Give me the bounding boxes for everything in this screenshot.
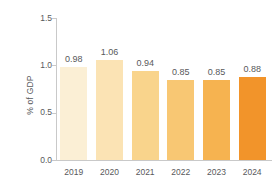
- bar[interactable]: [203, 80, 230, 160]
- bar-value-label: 1.06: [92, 47, 128, 57]
- x-tick-label: 2024: [234, 166, 270, 178]
- bar-value-label: 0.88: [234, 64, 270, 74]
- x-tick-label: 2023: [199, 166, 235, 178]
- bar-value-label: 0.98: [56, 54, 92, 64]
- bar-slot: 0.88: [234, 18, 270, 160]
- y-tick-label: 1.0: [6, 61, 52, 70]
- bar-slot: 0.85: [163, 18, 199, 160]
- y-axis-ticks: 0.00.51.01.5: [0, 0, 52, 190]
- bar[interactable]: [96, 60, 123, 160]
- bar-chart: % of GDP 0.00.51.01.5 0.981.060.940.850.…: [0, 0, 280, 190]
- x-tick-label: 2020: [92, 166, 128, 178]
- bar-slot: 1.06: [92, 18, 128, 160]
- y-tick-label: 0.0: [6, 156, 52, 165]
- bar-slot: 0.94: [127, 18, 163, 160]
- bar-value-label: 0.85: [163, 67, 199, 77]
- bar[interactable]: [60, 67, 87, 160]
- bar[interactable]: [132, 71, 159, 160]
- bar-value-label: 0.85: [199, 67, 235, 77]
- bar-slot: 0.98: [56, 18, 92, 160]
- x-tick-label: 2022: [163, 166, 199, 178]
- x-axis-labels: 201920202021202220232024: [56, 166, 270, 182]
- bar-value-label: 0.94: [127, 58, 163, 68]
- x-axis-line: [56, 160, 272, 161]
- bar[interactable]: [239, 77, 266, 160]
- bar[interactable]: [167, 80, 194, 160]
- plot-area: 0.981.060.940.850.850.88: [56, 18, 270, 160]
- y-tick-label: 0.5: [6, 108, 52, 117]
- x-tick-label: 2019: [56, 166, 92, 178]
- y-tick-label: 1.5: [6, 14, 52, 23]
- bar-slot: 0.85: [199, 18, 235, 160]
- x-tick-label: 2021: [127, 166, 163, 178]
